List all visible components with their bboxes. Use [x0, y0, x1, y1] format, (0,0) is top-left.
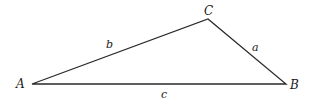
vertex-label-c: C	[204, 4, 213, 18]
triangle-shape	[32, 19, 286, 84]
side-label-a: a	[252, 41, 259, 54]
vertex-label-a: A	[15, 77, 25, 91]
vertex-label-b: B	[289, 78, 299, 92]
triangle-diagram: A B C a b c	[0, 0, 312, 101]
side-label-c: c	[161, 88, 167, 101]
side-label-b: b	[106, 38, 113, 51]
